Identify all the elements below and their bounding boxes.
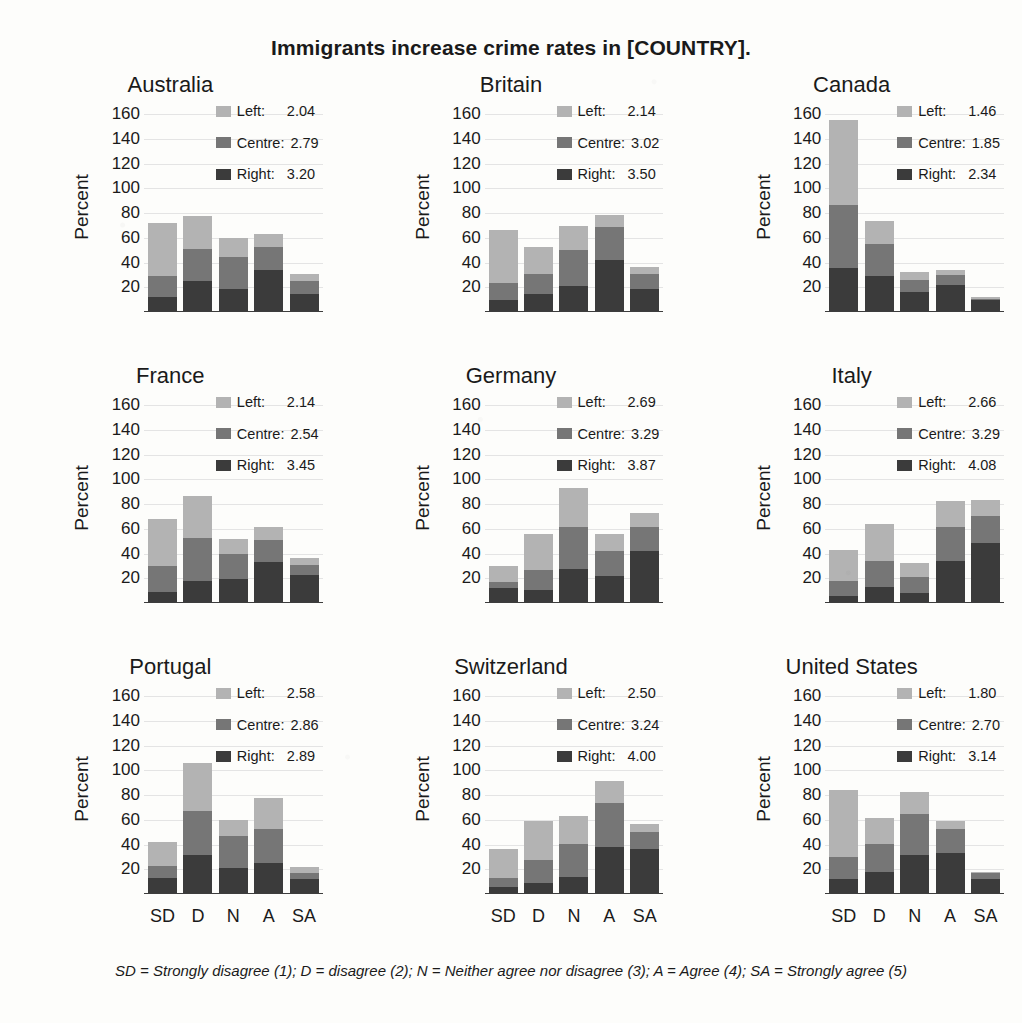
legend-item-right: Right:4.08 [897, 458, 1000, 473]
x-tick-label-sa: SA [971, 906, 1000, 927]
legend-label-right: Right: [918, 458, 962, 473]
bar-segment-left [936, 501, 965, 527]
panel-title-australia: Australia [0, 72, 341, 98]
bar-segment-right [290, 575, 319, 602]
x-axis-ticks: SDDNASA [144, 906, 323, 927]
legend-value-right: 3.50 [628, 167, 656, 182]
y-tick-label: 100 [452, 178, 480, 198]
x-tick-label-n: N [219, 906, 248, 927]
bar-australia-d [183, 216, 212, 311]
y-tick-label: 100 [112, 760, 140, 780]
bar-segment-left [489, 849, 518, 879]
plot-area-britain: Percent20406080100120140160Left:2.14Cent… [419, 102, 664, 312]
legend: Left:2.66Centre:3.29Right:4.08 [897, 395, 1000, 490]
bar-portugal-sd [148, 842, 177, 893]
y-tick-label: 80 [462, 785, 481, 805]
y-tick-label: 40 [802, 835, 821, 855]
bar-canada-d [865, 221, 894, 311]
legend-label-left: Left: [578, 686, 622, 701]
y-axis-ticks: 20406080100120140160 [92, 393, 140, 603]
y-tick-label: 80 [802, 494, 821, 514]
y-tick-label: 20 [121, 277, 140, 297]
y-tick-label: 80 [121, 785, 140, 805]
y-tick-label: 160 [452, 686, 480, 706]
legend-item-centre: Centre:3.02 [557, 136, 660, 151]
legend-item-left: Left:2.66 [897, 395, 1000, 410]
y-tick-label: 40 [802, 544, 821, 564]
bar-australia-sa [290, 274, 319, 311]
legend-value-right: 3.20 [287, 167, 315, 182]
bar-britain-d [524, 247, 553, 311]
bar-segment-left [559, 816, 588, 843]
bar-segment-centre [971, 516, 1000, 543]
bar-segment-centre [559, 844, 588, 877]
y-axis-ticks: 20406080100120140160 [433, 393, 481, 603]
bar-segment-centre [148, 566, 177, 592]
legend-swatch-left-icon [216, 688, 231, 699]
y-tick-label: 100 [452, 760, 480, 780]
legend-label-left: Left: [918, 104, 962, 119]
bar-segment-left [489, 230, 518, 283]
legend-value-left: 1.46 [968, 104, 996, 119]
bar-segment-right [900, 593, 929, 602]
bar-segment-centre [559, 527, 588, 569]
bar-segment-centre [936, 275, 965, 285]
bar-segment-centre [829, 857, 858, 879]
plot-area-germany: Percent20406080100120140160Left:2.69Cent… [419, 393, 664, 603]
bar-segment-left [595, 534, 624, 551]
x-tick-label-n: N [900, 906, 929, 927]
legend-label-left: Left: [918, 395, 962, 410]
y-tick-label: 160 [112, 395, 140, 415]
legend-item-left: Left:1.46 [897, 104, 1000, 119]
y-axis-label-text: Percent [752, 465, 774, 530]
bar-italy-n [900, 563, 929, 603]
legend-value-centre: 1.85 [972, 136, 1000, 151]
y-axis-label: Percent [411, 393, 435, 603]
legend-item-right: Right:2.34 [897, 167, 1000, 182]
x-axis-ticks: SDDNASA [485, 906, 664, 927]
bar-canada-a [936, 270, 965, 311]
bar-segment-left [595, 781, 624, 803]
y-tick-label: 60 [121, 810, 140, 830]
legend-label-left: Left: [578, 395, 622, 410]
legend-swatch-right-icon [557, 169, 572, 180]
bar-segment-centre [254, 540, 283, 562]
bar-segment-centre [148, 866, 177, 878]
bar-segment-right [524, 883, 553, 893]
y-axis-ticks: 20406080100120140160 [92, 684, 140, 894]
y-axis-ticks: 20406080100120140160 [433, 102, 481, 312]
plot-canvas: Left:2.58Centre:2.86Right:2.89 [144, 684, 323, 894]
plot-canvas: Left:2.50Centre:3.24Right:4.00 [485, 684, 664, 894]
legend-swatch-right-icon [897, 751, 912, 762]
page-title: Immigrants increase crime rates in [COUN… [0, 0, 1022, 60]
y-tick-label: 120 [793, 736, 821, 756]
panel-title-germany: Germany [341, 363, 682, 389]
bar-italy-sa [971, 500, 1000, 603]
y-tick-label: 160 [112, 686, 140, 706]
legend-item-centre: Centre:2.86 [216, 718, 319, 733]
x-tick-label-a: A [936, 906, 965, 927]
bar-segment-right [148, 878, 177, 893]
legend-swatch-centre-icon [557, 428, 572, 439]
bar-switzerland-sa [630, 824, 659, 893]
legend-swatch-left-icon [557, 688, 572, 699]
bar-united-states-sd [829, 790, 858, 893]
y-tick-label: 100 [793, 178, 821, 198]
y-axis-label: Percent [70, 393, 94, 603]
y-tick-label: 20 [462, 568, 481, 588]
bar-segment-right [936, 285, 965, 311]
plot-canvas: Left:2.66Centre:3.29Right:4.08 [825, 393, 1004, 603]
bar-segment-centre [900, 814, 929, 855]
legend-swatch-right-icon [897, 460, 912, 471]
bar-segment-right [219, 868, 248, 893]
bar-segment-right [183, 581, 212, 602]
y-tick-label: 20 [802, 277, 821, 297]
panel-title-italy: Italy [681, 363, 1022, 389]
bar-segment-right [148, 297, 177, 311]
bar-segment-left [900, 792, 929, 814]
bar-segment-centre [219, 257, 248, 289]
legend-label-right: Right: [578, 749, 622, 764]
x-tick-label-sa: SA [290, 906, 319, 927]
y-tick-label: 80 [802, 203, 821, 223]
legend-value-left: 2.69 [628, 395, 656, 410]
